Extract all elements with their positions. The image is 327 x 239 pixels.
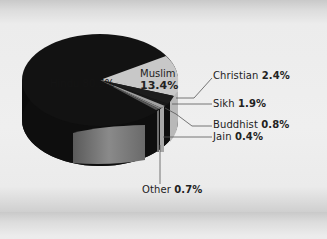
label-christian: Christian 2.4%	[213, 70, 290, 81]
label-muslim-value: 13.4%	[140, 80, 178, 92]
label-other-name: Other	[142, 184, 171, 195]
pie-side-gray	[73, 125, 145, 164]
pie-chart	[0, 0, 327, 212]
label-hindu-name: Hindu	[50, 78, 79, 89]
label-christian-name: Christian	[213, 70, 259, 81]
label-other: Other 0.7%	[142, 184, 202, 195]
label-muslim: Muslim 13.4%	[140, 68, 178, 92]
label-buddhist-name: Buddhist	[213, 119, 258, 130]
pie-side-jain	[157, 106, 159, 152]
label-jain-name: Jain	[213, 131, 232, 142]
label-sikh: Sikh 1.9%	[213, 98, 266, 109]
label-buddhist: Buddhist 0.8%	[213, 119, 289, 130]
label-hindu: Hindu 80.5%	[50, 78, 114, 89]
pie-side-buddhist	[160, 104, 164, 152]
label-muslim-name: Muslim	[140, 68, 175, 79]
label-jain: Jain 0.4%	[213, 131, 263, 142]
label-sikh-name: Sikh	[213, 98, 235, 109]
label-christian-value: 2.4%	[262, 70, 290, 81]
label-sikh-value: 1.9%	[238, 98, 266, 109]
label-buddhist-value: 0.8%	[261, 119, 289, 130]
label-jain-value: 0.4%	[235, 131, 263, 142]
label-hindu-value: 80.5%	[83, 78, 115, 89]
label-other-value: 0.7%	[174, 184, 202, 195]
